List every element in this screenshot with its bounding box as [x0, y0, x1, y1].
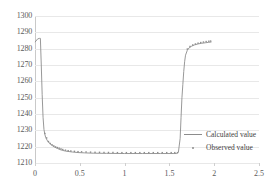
observed-point: [60, 148, 61, 149]
legend-label-observed: Observed value: [206, 143, 253, 152]
legend-label-calculated: Calculated value: [206, 130, 256, 139]
y-axis-tick-label: 1220: [0, 143, 32, 151]
observed-point: [162, 152, 163, 153]
observed-point: [203, 41, 204, 42]
observed-point: [46, 137, 47, 138]
legend-item-calculated: Calculated value: [183, 128, 273, 141]
x-axis-tick: [214, 163, 215, 166]
y-axis-tick-label: 1260: [0, 77, 32, 85]
x-axis-tick-label: 2: [201, 170, 227, 178]
observed-point: [58, 148, 59, 149]
observed-point: [177, 152, 178, 153]
gridline: [35, 163, 259, 164]
observed-point: [67, 150, 68, 151]
observed-point: [103, 152, 104, 153]
observed-point: [51, 144, 52, 145]
x-axis-tick-label: 0.5: [67, 170, 93, 178]
x-axis-tick-label: 2.5: [246, 170, 272, 178]
x-axis-tick: [125, 163, 126, 166]
observed-point: [108, 152, 109, 153]
observed-point: [148, 152, 149, 153]
observed-point: [99, 152, 100, 153]
observed-point: [208, 41, 209, 42]
observed-point: [94, 152, 95, 153]
observed-point: [70, 150, 71, 151]
observed-point: [210, 40, 211, 41]
line-chart: 1300129012801270126012501240123012201210…: [0, 0, 274, 188]
observed-point: [139, 152, 140, 153]
observed-point: [85, 151, 86, 152]
observed-point: [153, 152, 154, 153]
legend-item-observed: Observed value: [183, 141, 273, 154]
observed-point: [65, 149, 66, 150]
observed-point: [157, 152, 158, 153]
x-axis-tick: [80, 163, 81, 166]
observed-point: [77, 151, 78, 152]
x-axis-tick-label: 1.5: [156, 170, 182, 178]
observed-point: [50, 143, 51, 144]
chart-legend: Calculated value Observed value: [183, 128, 273, 154]
observed-point: [144, 152, 145, 153]
observed-point: [189, 46, 190, 47]
observed-point: [55, 146, 56, 147]
x-axis-tick: [169, 163, 170, 166]
x-axis-tick-label: 1: [112, 170, 138, 178]
observed-point: [195, 43, 196, 44]
observed-point: [205, 41, 206, 42]
observed-point: [187, 48, 188, 49]
observed-point: [81, 151, 82, 152]
y-axis-tick-label: 1210: [0, 159, 32, 167]
observed-point: [117, 152, 118, 153]
y-axis-tick-label: 1230: [0, 126, 32, 134]
observed-point: [48, 141, 49, 142]
observed-point: [74, 151, 75, 152]
observed-point: [192, 44, 193, 45]
observed-point: [130, 152, 131, 153]
dot-swatch-icon: [183, 143, 203, 153]
observed-point: [44, 133, 45, 134]
observed-point: [126, 152, 127, 153]
observed-point: [135, 152, 136, 153]
observed-point: [112, 152, 113, 153]
y-axis-tick-label: 1280: [0, 45, 32, 53]
observed-point: [53, 145, 54, 146]
y-axis-tick-label: 1300: [0, 12, 32, 20]
line-swatch-icon: [183, 130, 203, 140]
observed-point: [200, 42, 201, 43]
observed-point: [62, 149, 63, 150]
observed-point: [197, 42, 198, 43]
y-axis-tick-label: 1270: [0, 61, 32, 69]
y-axis-tick-label: 1240: [0, 110, 32, 118]
y-axis-tick-label: 1290: [0, 28, 32, 36]
observed-point: [90, 151, 91, 152]
y-axis-tick-label: 1250: [0, 94, 32, 102]
observed-point: [170, 152, 171, 153]
x-axis-tick: [35, 163, 36, 166]
observed-point: [174, 152, 175, 153]
observed-point: [121, 152, 122, 153]
x-axis-tick-label: 0: [22, 170, 48, 178]
observed-point: [166, 152, 167, 153]
x-axis-tick: [259, 163, 260, 166]
observed-point: [57, 147, 58, 148]
